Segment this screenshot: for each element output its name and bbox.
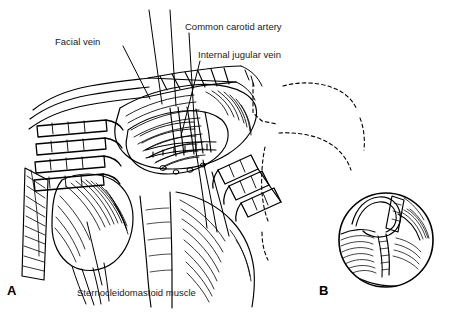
panel-label-b: B	[319, 283, 328, 298]
annotation-common-carotid-artery: Common carotid artery	[185, 21, 282, 32]
anatomical-illustration	[0, 0, 461, 315]
annotation-sternocleidomastoid-muscle: Sternocleidomastoid muscle	[77, 287, 196, 298]
annotation-facial-vein: Facial vein	[55, 36, 100, 47]
annotation-internal-jugular-vein: Internal jugular vein	[198, 49, 281, 60]
figure-root: Fig. 2. Radical neck dissection, techniq…	[0, 0, 461, 315]
panel-label-a: A	[7, 283, 16, 298]
